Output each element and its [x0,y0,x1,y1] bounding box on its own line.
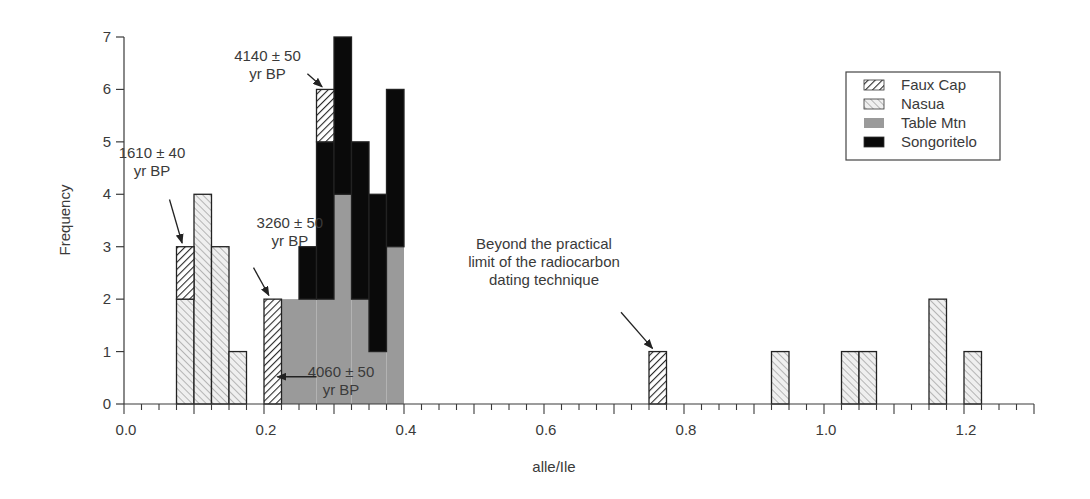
x-tick-label: 0.0 [116,421,137,438]
legend-swatch-songoritelo [864,137,884,147]
y-tick-label: 5 [103,133,111,150]
legend-swatch-faux-cap [864,80,884,90]
annotation-text: yr BP [249,65,286,82]
bar-nasua [842,352,860,404]
bar-nasua [229,352,247,404]
histogram-chart: 012345670.00.20.40.60.81.01.2alle/IleFre… [0,0,1090,499]
x-tick-label: 0.8 [676,421,697,438]
annotation-text: limit of the radiocarbon [468,253,620,270]
bar-songoritelo [352,142,370,299]
y-tick-label: 7 [103,28,111,45]
y-tick-label: 0 [103,395,111,412]
annotation-text: yr BP [323,381,360,398]
legend: Faux CapNasuaTable MtnSongoritelo [846,72,1000,160]
bar-nasua [177,299,195,404]
y-tick-label: 4 [103,185,111,202]
bar-table-mtn [387,247,405,404]
x-axis-title: alle/Ile [532,458,575,475]
bar-nasua [859,352,877,404]
annotation: Beyond the practicallimit of the radioca… [468,235,652,348]
annotation: 1610 ± 40yr BP [119,144,186,243]
bar-nasua [772,352,790,404]
annotation-text: dating technique [489,271,599,288]
annotation-arrow-icon [621,312,653,348]
bar-faux-cap [177,247,195,299]
annotation: 4140 ± 50yr BP [234,47,322,87]
legend-swatch-nasua [864,99,884,109]
legend-label: Nasua [901,95,945,112]
legend-swatch-table-mtn [864,118,884,128]
annotation-text: 4060 ± 50 [308,363,375,380]
x-tick-label: 1.2 [956,421,977,438]
bar-songoritelo [334,37,352,194]
bar-nasua [929,299,947,404]
bar-table-mtn [299,299,317,404]
y-tick-label: 1 [103,343,111,360]
x-tick-label: 1.0 [816,421,837,438]
bar-songoritelo [299,247,317,299]
bar-nasua [964,352,982,404]
annotation-text: 4140 ± 50 [234,47,301,64]
legend-label: Table Mtn [901,114,966,131]
annotation-text: yr BP [134,162,171,179]
bar-nasua [212,247,230,404]
bar-nasua [194,194,212,404]
legend-label: Songoritelo [901,133,977,150]
y-axis-title: Frequency [56,184,73,255]
y-tick-label: 3 [103,238,111,255]
bar-songoritelo [387,89,405,246]
bar-songoritelo [369,194,387,351]
bar-table-mtn [282,299,300,404]
annotation-arrow-icon [307,74,322,87]
annotation-text: Beyond the practical [476,235,612,252]
annotation-text: 1610 ± 40 [119,144,186,161]
annotation-text: 3260 ± 50 [257,214,324,231]
y-tick-label: 6 [103,80,111,97]
bar-faux-cap [317,89,335,141]
bar-faux-cap [264,299,282,404]
annotation-text: yr BP [272,232,309,249]
annotation-arrow-icon [254,268,269,296]
y-tick-label: 2 [103,290,111,307]
x-tick-label: 0.4 [396,421,417,438]
x-tick-label: 0.2 [256,421,277,438]
annotation-arrow-icon [170,200,183,244]
x-tick-label: 0.6 [536,421,557,438]
bar-faux-cap [649,352,667,404]
legend-label: Faux Cap [901,76,966,93]
